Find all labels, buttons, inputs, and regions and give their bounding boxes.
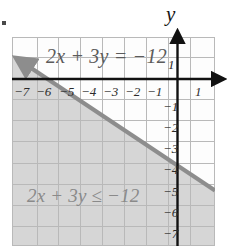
boundary-equation-label: 2x + 3y = −12 (46, 46, 167, 66)
y-tick-label: −4 (163, 163, 178, 176)
x-tick-label: −6 (36, 85, 51, 98)
coordinate-plane (0, 0, 235, 251)
x-tick-label: 1 (195, 85, 202, 98)
y-tick-label: −6 (163, 206, 178, 219)
x-tick-label: −4 (81, 85, 96, 98)
x-tick-label: −5 (59, 85, 74, 98)
y-tick-label: −3 (163, 142, 178, 155)
x-tick-label: −3 (103, 85, 118, 98)
x-tick-label: −2 (125, 85, 140, 98)
x-tick-label: −7 (14, 85, 29, 98)
x-tick-label: −1 (147, 85, 162, 98)
graph-figure: y (0, 0, 235, 251)
y-tick-label: 1 (168, 58, 175, 71)
y-tick-label: −7 (163, 227, 178, 240)
y-tick-label: −5 (163, 185, 178, 198)
y-tick-label: −1 (163, 100, 178, 113)
y-tick-label: −2 (163, 121, 178, 134)
inequality-label: 2x + 3y ≤ −12 (27, 186, 140, 205)
